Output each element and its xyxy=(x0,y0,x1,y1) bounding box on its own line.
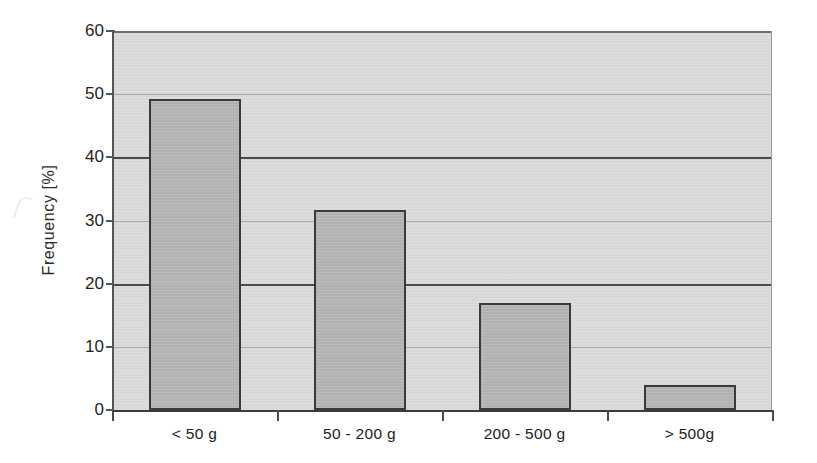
x-tick-label-3: 200 - 500 g xyxy=(484,425,566,443)
bar-chart-figure: Frequency [%] 0102030405060 < 50 g50 - 2… xyxy=(0,0,817,463)
y-tick-label-10: 10 xyxy=(70,337,104,357)
x-tick-mark-4 xyxy=(772,410,774,421)
bar-3 xyxy=(479,303,571,410)
x-tick-mark-3 xyxy=(607,410,609,421)
y-tick-label-20: 20 xyxy=(70,274,104,294)
y-axis-title: Frequency [%] xyxy=(34,30,64,410)
x-tick-mark-1 xyxy=(277,410,279,421)
y-tick-label-60: 60 xyxy=(70,21,104,41)
plot-area xyxy=(112,31,772,410)
y-tick-label-30: 30 xyxy=(70,211,104,231)
scan-artifact xyxy=(13,195,33,222)
x-tick-label-2: 50 - 200 g xyxy=(323,425,396,443)
y-axis-tick-labels: 0102030405060 xyxy=(68,0,104,463)
y-tick-label-0: 0 xyxy=(70,400,104,420)
axis-top xyxy=(112,31,772,33)
x-tick-mark-2 xyxy=(442,410,444,421)
bar-2 xyxy=(314,210,406,410)
y-tick-label-50: 50 xyxy=(70,84,104,104)
bar-texture xyxy=(151,101,239,408)
axis-left xyxy=(112,31,114,410)
x-tick-label-1: < 50 g xyxy=(172,425,217,443)
x-tick-label-4: > 500g xyxy=(665,425,715,443)
axis-right xyxy=(771,31,772,410)
bar-texture xyxy=(481,305,569,408)
gridline-50 xyxy=(112,94,772,95)
bar-4 xyxy=(644,385,736,410)
bar-texture xyxy=(646,387,734,408)
x-tick-mark-0 xyxy=(112,410,114,421)
bar-1 xyxy=(149,99,241,410)
bar-texture xyxy=(316,212,404,408)
y-tick-label-40: 40 xyxy=(70,147,104,167)
